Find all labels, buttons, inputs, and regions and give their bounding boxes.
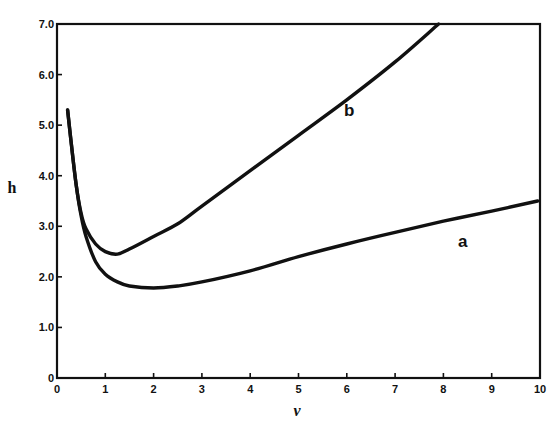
- y-axis-label: h: [8, 179, 17, 196]
- x-tick-label: 1: [102, 383, 108, 395]
- x-axis-label: ν: [293, 402, 301, 419]
- y-axis-ticks: 01.02.03.04.05.06.07.0: [39, 18, 62, 384]
- y-tick-label: 5.0: [39, 119, 54, 131]
- y-tick-label: 7.0: [39, 18, 54, 30]
- y-tick-label: 0: [48, 372, 54, 384]
- x-tick-label: 9: [489, 383, 495, 395]
- x-tick-label: 3: [199, 383, 205, 395]
- curve-a-label: a: [458, 232, 468, 251]
- y-tick-label: 6.0: [39, 69, 54, 81]
- y-tick-label: 4.0: [39, 170, 54, 182]
- y-tick-label: 2.0: [39, 271, 54, 283]
- x-tick-label: 2: [151, 383, 157, 395]
- plot-border: [57, 24, 540, 378]
- x-tick-label: 10: [534, 383, 546, 395]
- x-tick-label: 5: [295, 383, 301, 395]
- plot-frame: [57, 24, 540, 378]
- y-tick-label: 1.0: [39, 321, 54, 333]
- x-tick-label: 4: [247, 383, 254, 395]
- curve-a: [68, 110, 538, 288]
- x-tick-label: 6: [344, 383, 350, 395]
- x-tick-label: 8: [440, 383, 446, 395]
- y-tick-label: 3.0: [39, 220, 54, 232]
- x-tick-label: 7: [392, 383, 398, 395]
- curve-b-label: b: [344, 101, 354, 120]
- x-tick-label: 0: [54, 383, 60, 395]
- chart: 012345678910 01.02.03.04.05.06.07.0 ν h …: [0, 0, 555, 429]
- x-axis-ticks: 012345678910: [54, 373, 546, 395]
- curve-b: [68, 24, 439, 254]
